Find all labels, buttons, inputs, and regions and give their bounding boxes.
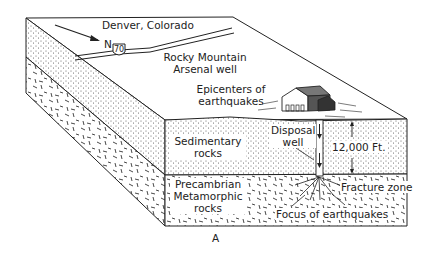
fracture-zone-label: Fracture zone	[340, 181, 414, 193]
disposal-well-label: Disposal well	[270, 124, 316, 148]
focus-label: Focus of earthquakes	[275, 208, 389, 220]
city-label: Denver, Colorado	[102, 19, 194, 31]
precambrian-label: Precambrian Metamorphic rocks	[170, 178, 246, 214]
figure-label: A	[212, 232, 219, 244]
north-label: N	[104, 38, 112, 50]
sedimentary-label: Sedimentary rocks	[170, 135, 246, 159]
epicenters-label: Epicenters of earthquakes	[196, 83, 266, 107]
highway-number: 70	[114, 44, 124, 56]
depth-label: 12,000 Ft.	[331, 141, 387, 153]
well-site-label: Rocky Mountain Arsenal well	[160, 51, 250, 75]
